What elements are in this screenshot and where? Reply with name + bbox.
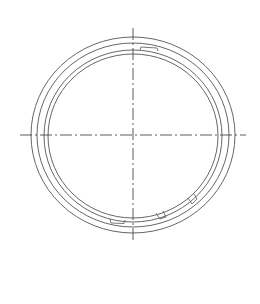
drawing-canvas xyxy=(0,0,260,304)
ring-drawing xyxy=(0,0,260,304)
